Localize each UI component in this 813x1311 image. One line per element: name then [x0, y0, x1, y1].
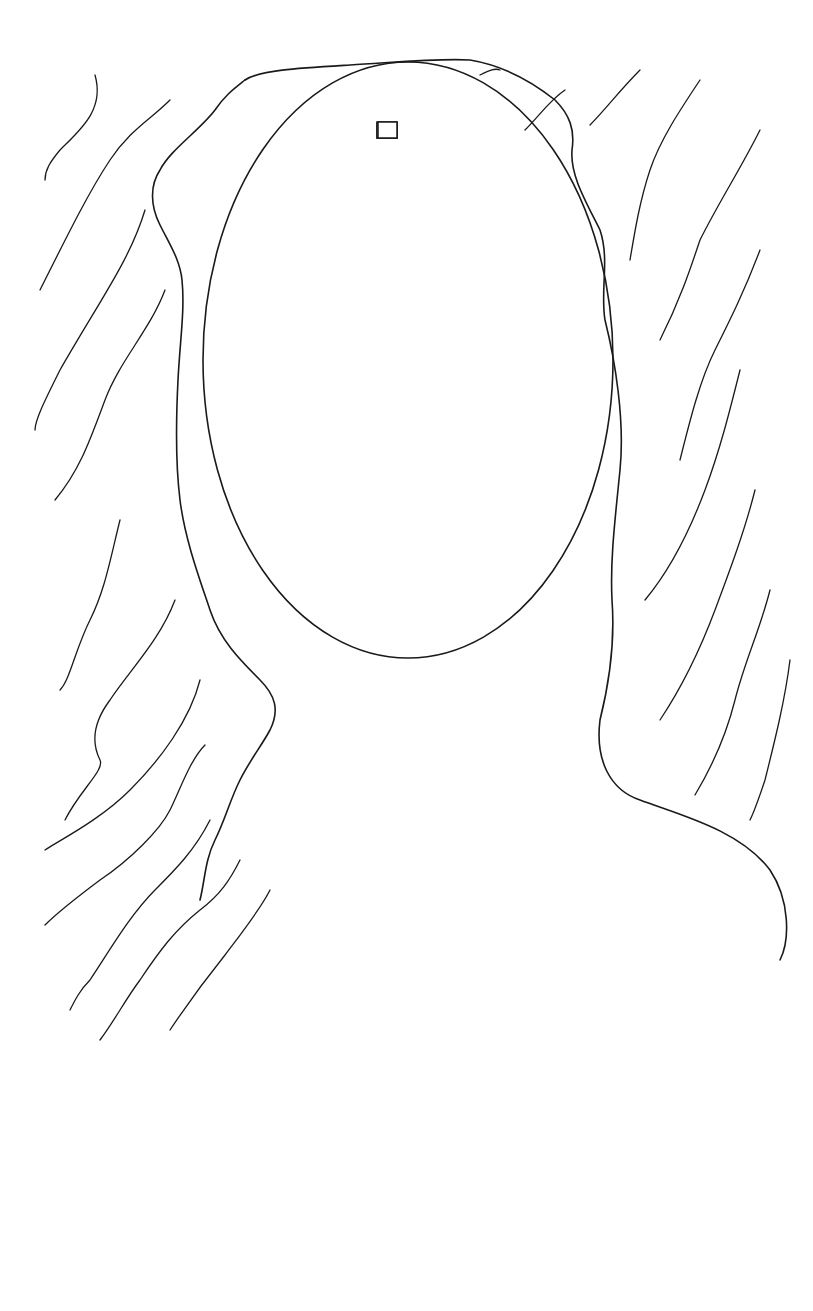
dome-outline [203, 62, 613, 658]
terrain-contours-right [480, 69, 790, 820]
facility-map [0, 0, 813, 1311]
canyon-rim [153, 59, 787, 960]
huts-top-cluster [377, 122, 397, 138]
terrain-contours-left [35, 75, 270, 1040]
